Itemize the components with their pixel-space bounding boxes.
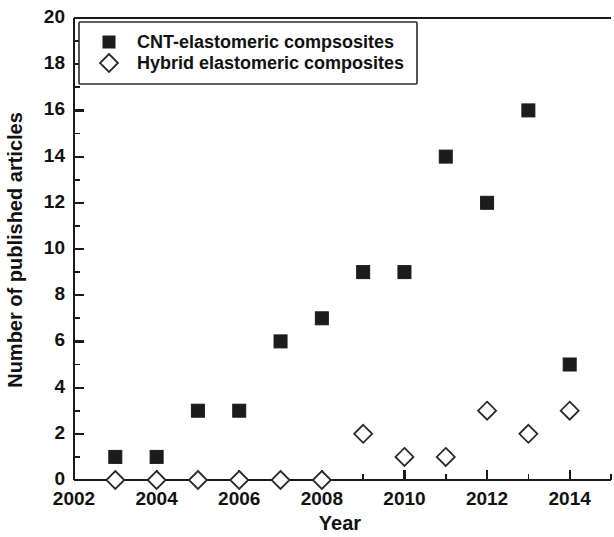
y-axis-title: Number of published articles <box>4 112 26 388</box>
x-axis-title: Year <box>319 512 361 534</box>
y-tick-label: 20 <box>44 6 65 27</box>
data-point-diamond <box>230 471 248 489</box>
x-axis-tick-labels: 2002200420062008201020122014 <box>53 488 591 509</box>
y-tick-label: 10 <box>44 237 65 258</box>
data-point-diamond <box>313 471 331 489</box>
y-tick-label: 16 <box>44 98 65 119</box>
data-point-diamond <box>189 471 207 489</box>
chart-container: 02468101214161820 2002200420062008201020… <box>0 0 614 537</box>
y-axis-tick-labels: 02468101214161820 <box>44 6 66 489</box>
data-point-square <box>439 150 452 163</box>
legend-label-hybrid-elastomeric: Hybrid elastomeric composites <box>137 53 404 73</box>
data-point-diamond <box>106 471 124 489</box>
y-tick-label: 14 <box>44 145 66 166</box>
plot-axes <box>74 18 611 480</box>
data-point-diamond <box>519 425 537 443</box>
y-tick-label: 6 <box>54 329 65 350</box>
x-tick-label: 2010 <box>383 488 425 509</box>
y-tick-label: 2 <box>54 422 65 443</box>
data-point-square <box>563 358 576 371</box>
data-point-square <box>109 450 122 463</box>
series-2-points <box>106 402 578 489</box>
series-1-points <box>109 104 576 464</box>
x-tick-label: 2012 <box>466 488 508 509</box>
x-tick-label: 2002 <box>53 488 95 509</box>
x-tick-label: 2008 <box>301 488 343 509</box>
data-point-square <box>233 404 246 417</box>
y-tick-label: 18 <box>44 52 65 73</box>
chart-legend: CNT-elastomeric compsosites Hybrid elast… <box>79 22 417 84</box>
data-point-diamond <box>395 448 413 466</box>
data-point-diamond <box>354 425 372 443</box>
scatter-plot: 02468101214161820 2002200420062008201020… <box>0 0 614 537</box>
data-points-layer <box>106 104 578 489</box>
x-tick-label: 2014 <box>549 488 592 509</box>
data-point-square <box>357 266 370 279</box>
y-tick-label: 8 <box>54 283 65 304</box>
y-tick-label: 12 <box>44 191 65 212</box>
data-point-square <box>274 335 287 348</box>
x-tick-label: 2004 <box>135 488 178 509</box>
x-tick-label: 2006 <box>218 488 260 509</box>
y-tick-label: 0 <box>54 468 65 489</box>
data-point-diamond <box>561 402 579 420</box>
data-point-square <box>150 450 163 463</box>
data-point-diamond <box>148 471 166 489</box>
data-point-diamond <box>437 448 455 466</box>
data-point-square <box>315 312 328 325</box>
data-point-square <box>522 104 535 117</box>
data-point-diamond <box>478 402 496 420</box>
data-point-square <box>398 266 411 279</box>
y-tick-label: 4 <box>54 376 65 397</box>
legend-label-cnt-elastomeric: CNT-elastomeric compsosites <box>137 32 394 52</box>
legend-marker-filled-square-icon <box>103 36 115 48</box>
data-point-diamond <box>272 471 290 489</box>
data-point-square <box>191 404 204 417</box>
data-point-square <box>481 196 494 209</box>
